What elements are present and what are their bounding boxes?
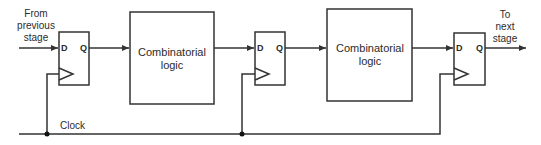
clock-triangle-2 (255, 68, 269, 80)
svg-text:Q: Q (476, 43, 483, 53)
output-label-line3: stage (493, 33, 518, 44)
input-label-line3: stage (24, 32, 49, 43)
svg-text:previous: previous (17, 20, 55, 31)
svg-text:D: D (456, 43, 463, 53)
flip-flop-2 (255, 32, 285, 85)
svg-text:To: To (500, 9, 511, 20)
clock-wire-2 (242, 74, 255, 134)
clock-triangle-1 (59, 68, 73, 80)
pipeline-diagram: From previous stage To next stage Clock … (0, 0, 541, 145)
output-label-line1: To (500, 9, 511, 20)
svg-text:next: next (496, 21, 515, 32)
svg-text:Q: Q (80, 43, 87, 53)
input-label-line2: previous (17, 20, 55, 31)
logic1-line2: logic (161, 59, 184, 71)
ff1-q-label: Q (80, 43, 87, 53)
ff3-q-label: Q (476, 43, 483, 53)
flip-flop-1 (59, 32, 89, 85)
svg-text:From: From (24, 8, 47, 19)
logic1-line1: Combinatorial (138, 46, 206, 58)
svg-text:D: D (257, 43, 264, 53)
svg-text:logic: logic (161, 59, 184, 71)
clock-wire-1 (47, 74, 59, 134)
svg-text:Combinatorial: Combinatorial (336, 42, 404, 54)
clock-junction-1 (45, 132, 50, 137)
ff2-q-label: Q (276, 43, 283, 53)
input-label-line1: From (24, 8, 47, 19)
svg-text:Clock: Clock (60, 120, 86, 131)
svg-text:logic: logic (359, 55, 382, 67)
logic2-line2: logic (359, 55, 382, 67)
clock-label: Clock (60, 120, 86, 131)
output-label-line2: next (496, 21, 515, 32)
ff2-d-label: D (257, 43, 264, 53)
svg-text:stage: stage (493, 33, 518, 44)
svg-text:Combinatorial: Combinatorial (138, 46, 206, 58)
logic-block-1 (130, 12, 214, 104)
ff3-d-label: D (456, 43, 463, 53)
clock-junction-2 (240, 132, 245, 137)
clock-triangle-3 (454, 68, 468, 80)
logic2-line1: Combinatorial (336, 42, 404, 54)
svg-text:D: D (61, 43, 68, 53)
svg-text:stage: stage (24, 32, 49, 43)
svg-text:Q: Q (276, 43, 283, 53)
ff1-d-label: D (61, 43, 68, 53)
